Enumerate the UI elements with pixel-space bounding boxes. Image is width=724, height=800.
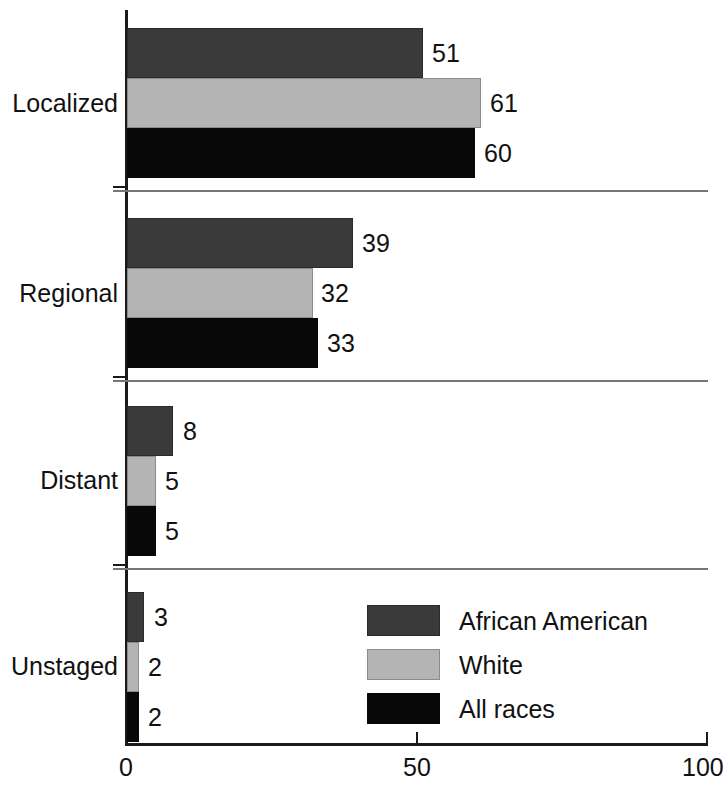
bar-distant-white[interactable] (127, 456, 156, 506)
bar-localized-all-races[interactable] (127, 128, 475, 178)
group-separator-2 (113, 380, 708, 382)
x-axis-tick-label-100: 100 (682, 752, 724, 782)
category-label-unstaged: Unstaged (11, 651, 118, 681)
bar-unstaged-all-races[interactable] (127, 692, 139, 742)
x-axis-tick-50 (416, 732, 418, 744)
bar-regional-african-american[interactable] (127, 218, 353, 268)
category-label-regional: Regional (19, 278, 118, 308)
x-axis-tick-100 (706, 732, 708, 744)
bar-value-distant-white: 5 (165, 467, 179, 495)
bar-value-localized-white: 61 (490, 89, 518, 117)
bar-value-distant-african-american: 8 (183, 417, 197, 445)
bar-distant-african-american[interactable] (127, 406, 173, 456)
bar-value-regional-white: 32 (321, 279, 349, 307)
bar-distant-all-races[interactable] (127, 506, 156, 556)
legend-label-all-races: All races (459, 690, 555, 728)
bar-value-regional-african-american: 39 (362, 229, 390, 257)
group-separator-3 (113, 568, 708, 570)
category-label-localized: Localized (12, 88, 118, 118)
group-separator-1 (113, 190, 708, 192)
bar-value-unstaged-white: 2 (148, 653, 162, 681)
bar-localized-african-american[interactable] (127, 28, 423, 78)
bar-unstaged-white[interactable] (127, 642, 139, 692)
legend-swatch-all-races (367, 693, 440, 724)
bar-unstaged-african-american[interactable] (127, 592, 144, 642)
legend-swatch-white (367, 649, 440, 680)
x-axis-tick-label-50: 50 (403, 752, 431, 782)
bar-value-unstaged-african-american: 3 (154, 603, 168, 631)
bar-value-distant-all-races: 5 (165, 517, 179, 545)
legend-label-white: White (459, 646, 523, 684)
group-separator-tick-1 (113, 186, 127, 188)
x-axis-tick-label-0: 0 (119, 752, 133, 782)
bar-value-localized-african-american: 51 (432, 39, 460, 67)
bar-value-unstaged-all-races: 2 (148, 703, 162, 731)
group-separator-tick-2 (113, 376, 127, 378)
bar-regional-white[interactable] (127, 268, 313, 318)
category-label-distant: Distant (40, 465, 118, 495)
bar-localized-white[interactable] (127, 78, 481, 128)
bar-value-localized-all-races: 60 (484, 139, 512, 167)
legend-swatch-african-american (367, 605, 440, 636)
bar-value-regional-all-races: 33 (327, 329, 355, 357)
legend-label-african-american: African American (459, 602, 648, 640)
bar-regional-all-races[interactable] (127, 318, 318, 368)
group-separator-tick-3 (113, 564, 127, 566)
